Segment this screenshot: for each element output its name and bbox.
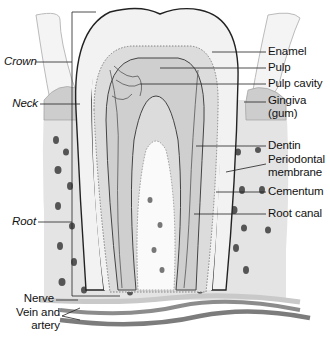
label-neck: Neck [8, 97, 38, 110]
tooth-diagram: Crown Neck Root Nerve Vein and artery En… [0, 0, 330, 345]
label-pulp-cavity: Pulp cavity [268, 77, 323, 90]
label-vein-and-artery-line1: Vein and [2, 306, 60, 319]
label-membrane: membrane [268, 166, 322, 179]
label-root: Root [8, 215, 36, 228]
label-pulp: Pulp [268, 61, 291, 74]
label-cementum: Cementum [268, 185, 323, 198]
label-dentin: Dentin [268, 139, 301, 152]
label-enamel: Enamel [268, 45, 306, 58]
label-periodontal: Periodontal [268, 153, 325, 166]
blood-vessels [40, 296, 310, 324]
label-vein-and-artery-line2: artery [12, 319, 60, 332]
label-root-canal: Root canal [268, 207, 322, 220]
label-gum: (gum) [268, 107, 298, 120]
label-crown: Crown [4, 55, 36, 68]
label-nerve: Nerve [4, 292, 54, 305]
label-gingiva: Gingiva [268, 94, 306, 107]
